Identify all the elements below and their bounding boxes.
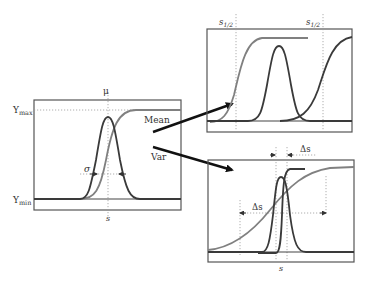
ymax-label: Ymax (12, 105, 33, 117)
s-label-left: s (106, 214, 110, 223)
mean-shift-panel: s1/2 s1/2 (207, 14, 352, 132)
ymin-label: Ymin (12, 195, 31, 207)
delta-s-wide-label: Δs (252, 202, 263, 212)
bottom-right-frame (208, 160, 354, 262)
s-half-left-label: s1/2 (219, 17, 233, 28)
s-label-bottom-right: s (279, 264, 283, 273)
delta-s-top-label: Δs (300, 144, 311, 154)
var-label: Var (150, 152, 167, 162)
diagram-canvas: Ymax Ymin μ σ s Mean Var s1/2 s1/2 (0, 0, 367, 283)
left-shifted-cdf (210, 38, 308, 122)
top-right-frame (207, 29, 352, 132)
mean-label: Mean (144, 115, 170, 125)
mu-label: μ (103, 86, 109, 96)
variance-panel: Δs Δs s (208, 144, 354, 273)
sigma-label: σ (84, 164, 91, 174)
s-half-right-label: s1/2 (306, 17, 320, 28)
